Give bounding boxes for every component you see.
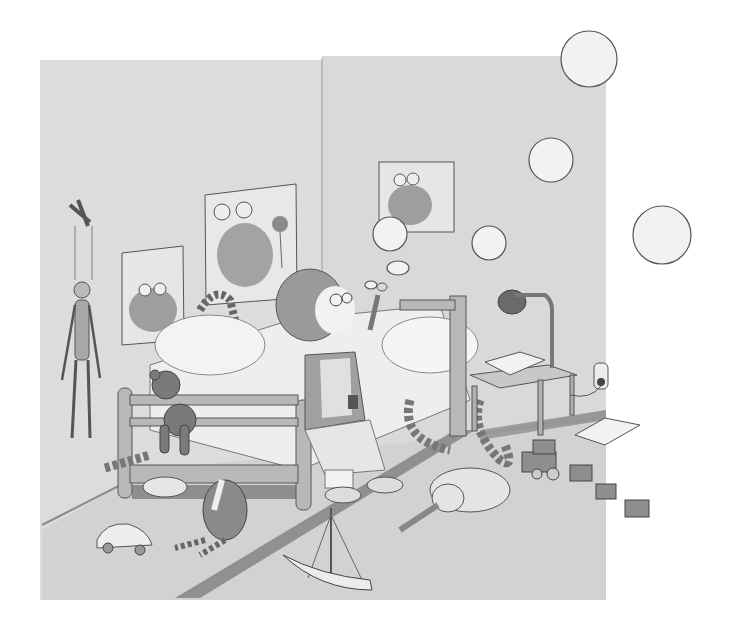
bubble [633,206,691,264]
bubble [373,217,407,251]
bedroom-illustration [0,0,730,636]
cat-under-bed [143,477,187,497]
bubble [365,281,377,289]
bubble [472,226,506,260]
bubble [387,261,409,275]
bubble [529,138,573,182]
bubble [561,31,617,87]
